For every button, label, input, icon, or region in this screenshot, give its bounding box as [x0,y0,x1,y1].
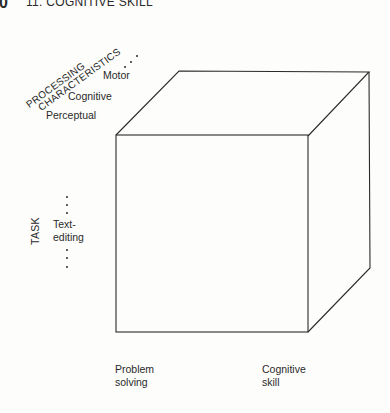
cube-top-face [116,71,369,136]
processing-continuation-dot [136,55,138,57]
task-continuation-dot [66,212,68,214]
bottom-label-cognitive-skill-line1: Cognitive [262,363,306,376]
processing-continuation-dot [130,61,132,63]
bottom-label-problem-solving-line1: Problem [115,363,154,376]
processing-item-perceptual: Perceptual [46,109,96,122]
cube-front-face [116,135,308,332]
task-continuation-dot [66,196,68,198]
task-continuation-dot [66,266,68,268]
cube-right-face [308,72,370,332]
bottom-label-cognitive-skill-line2: skill [262,376,280,389]
task-continuation-dot [66,257,68,259]
task-continuation-dot [66,204,68,206]
processing-item-motor: Motor [103,69,130,82]
task-continuation-dot [66,249,68,251]
bottom-label-problem-solving-line2: solving [115,376,148,389]
processing-continuation-dot [124,66,126,68]
task-item-line1: Text- [53,218,76,231]
processing-item-cognitive: Cognitive [68,90,112,103]
task-item-line2: editing [53,231,84,244]
task-axis-title: TASK [29,217,41,245]
cube-diagram [0,0,390,413]
